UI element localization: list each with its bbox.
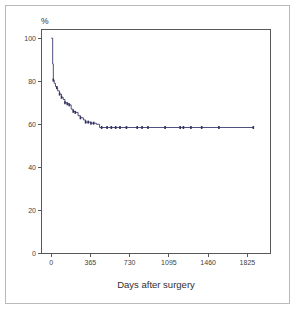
y-axis-unit-label-group: % [41, 16, 49, 26]
x-tick-label: 0 [49, 259, 53, 266]
figure-container: % 020406080100 0365730109514601825 Days … [0, 0, 295, 309]
plot-frame [42, 30, 271, 254]
survival-curve-line [51, 38, 253, 127]
y-tick-label: 0 [32, 250, 36, 257]
x-axis-ticks: 0365730109514601825 [49, 254, 255, 267]
y-tick-label: 60 [28, 121, 36, 128]
x-tick-label: 1825 [240, 259, 256, 266]
y-tick-label: 20 [28, 207, 36, 214]
x-axis-title: Days after surgery [117, 279, 195, 290]
y-axis-unit-label: % [41, 16, 49, 26]
y-tick-label: 40 [28, 164, 36, 171]
x-tick-label: 730 [124, 259, 136, 266]
y-axis-ticks: 020406080100 [24, 35, 41, 257]
y-tick-label: 100 [24, 35, 36, 42]
y-tick-label: 80 [28, 78, 36, 85]
x-tick-label: 365 [85, 259, 97, 266]
survival-curve-group [51, 38, 253, 127]
kaplan-meier-chart: % 020406080100 0365730109514601825 Days … [0, 0, 295, 309]
x-tick-label: 1095 [161, 259, 177, 266]
censored-marks-group [53, 79, 253, 129]
plot-box-border [42, 30, 271, 254]
x-tick-label: 1460 [200, 259, 216, 266]
